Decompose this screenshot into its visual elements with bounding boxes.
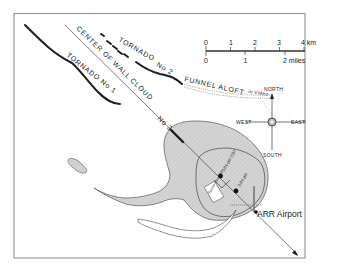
tornado-1-track: [25, 25, 120, 104]
scale-mi-2: 2 miles: [283, 57, 306, 64]
north-arrow-icon: [270, 93, 274, 99]
scale-km-3: 3: [277, 39, 281, 46]
tornado-track-map: TORNADO No 1 CENTER OF WALL CLOUD No 3 T…: [0, 0, 338, 271]
map-frame: [14, 14, 305, 259]
time-marker-2: [234, 189, 239, 194]
funnel-leader-line: [260, 98, 272, 114]
scale-km-0: 0: [204, 39, 208, 46]
echo-small-blob: [68, 158, 87, 173]
scale-mi-1: 1: [244, 57, 248, 64]
compass-north: NORTH: [264, 86, 283, 92]
echo-main: [94, 121, 268, 220]
scale-km-4: 4 km: [301, 39, 316, 46]
scale-km-2: 2: [253, 39, 257, 46]
scale-km-1: 1: [229, 39, 233, 46]
scale-mi-0: 0: [204, 57, 208, 64]
compass-south: SOUTH: [263, 152, 282, 158]
radar-echo: [68, 121, 268, 238]
direction-arrowhead: [292, 250, 298, 256]
funnel-aloft-label: FUNNEL ALOFT: [184, 75, 245, 96]
airport-label: ARR Airport: [257, 209, 303, 219]
tornado-2-label: TORNADO: [118, 36, 157, 62]
compass-east: EAST: [291, 119, 305, 125]
scale-bar: 0 1 2 3 4 km 0 1 2 miles: [204, 39, 316, 64]
compass-west: WEST: [236, 119, 252, 125]
